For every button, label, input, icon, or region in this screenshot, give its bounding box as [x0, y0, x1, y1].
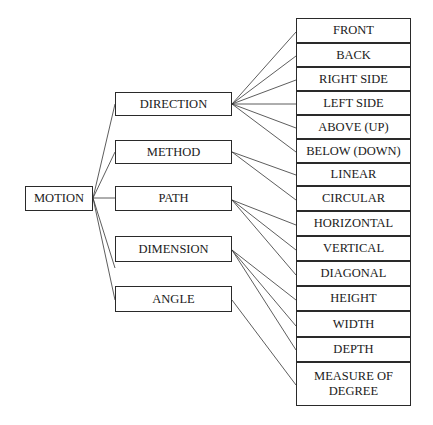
leaf-node-below: BELOW (DOWN): [296, 139, 411, 163]
leaf-node-back: BACK: [296, 43, 411, 67]
leaf-node-right-side: RIGHT SIDE: [296, 67, 411, 91]
category-node-method: METHOD: [115, 140, 232, 164]
node-label: ANGLE: [152, 292, 194, 307]
node-label: MOTION: [34, 191, 84, 206]
node-label: METHOD: [147, 145, 200, 160]
category-node-angle: ANGLE: [115, 286, 232, 312]
leaf-node-vertical: VERTICAL: [296, 236, 411, 261]
leaf-node-diagonal: DIAGONAL: [296, 261, 411, 286]
node-label: BACK: [336, 48, 371, 63]
leaf-node-measure-of-degree: MEASURE OF DEGREE: [296, 362, 411, 406]
node-label: DEPTH: [333, 342, 373, 357]
leaf-node-circular: CIRCULAR: [296, 186, 411, 211]
leaf-node-height: HEIGHT: [296, 286, 411, 311]
leaf-node-front: FRONT: [296, 18, 411, 43]
node-label: MEASURE OF DEGREE: [311, 369, 396, 399]
node-label: LEFT SIDE: [323, 96, 384, 111]
category-node-dimension: DIMENSION: [115, 236, 232, 262]
node-label: DIMENSION: [138, 242, 208, 257]
node-label: DIAGONAL: [321, 266, 387, 281]
category-node-path: PATH: [115, 186, 232, 211]
node-label: ABOVE (UP): [318, 120, 388, 135]
node-label: BELOW (DOWN): [306, 144, 401, 159]
node-label: HORIZONTAL: [314, 216, 394, 231]
node-label: FRONT: [333, 23, 374, 38]
node-label: VERTICAL: [323, 241, 384, 256]
leaf-node-width: WIDTH: [296, 311, 411, 337]
leaf-node-above: ABOVE (UP): [296, 115, 411, 139]
node-label: LINEAR: [331, 167, 377, 182]
node-label: HEIGHT: [330, 291, 377, 306]
root-node-motion: MOTION: [25, 186, 93, 211]
leaf-node-horizontal: HORIZONTAL: [296, 211, 411, 236]
category-node-direction: DIRECTION: [115, 92, 232, 116]
leaf-node-linear: LINEAR: [296, 163, 411, 186]
leaf-node-left-side: LEFT SIDE: [296, 91, 411, 115]
node-label: WIDTH: [333, 317, 375, 332]
leaf-node-depth: DEPTH: [296, 337, 411, 362]
node-label: RIGHT SIDE: [319, 72, 388, 87]
node-label: PATH: [158, 191, 188, 206]
node-label: CIRCULAR: [322, 191, 385, 206]
node-label: DIRECTION: [140, 97, 207, 112]
